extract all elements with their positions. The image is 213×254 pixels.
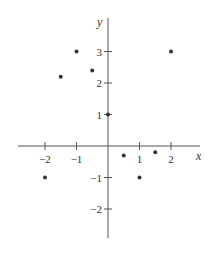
scatter-plot: −2−112−2−1123 x y <box>0 0 213 254</box>
data-point <box>122 153 126 157</box>
y-tick-label: 1 <box>97 109 103 121</box>
plot-area: −2−112−2−1123 x y <box>0 0 213 254</box>
data-point <box>43 176 47 180</box>
x-tick-label: −2 <box>39 153 51 165</box>
y-tick-label: 2 <box>97 77 103 89</box>
y-tick-label: −1 <box>90 172 102 184</box>
data-point <box>106 113 110 117</box>
data-point <box>59 75 63 79</box>
data-point <box>153 150 157 154</box>
data-point <box>90 68 94 72</box>
data-point <box>169 50 173 54</box>
data-point <box>138 176 142 180</box>
y-tick-label: −2 <box>90 203 102 215</box>
x-tick-label: 2 <box>168 153 174 165</box>
ticks: −2−112−2−1123 <box>39 46 174 216</box>
y-axis-label: y <box>96 15 103 29</box>
y-tick-label: 3 <box>97 46 103 58</box>
x-axis-label: x <box>195 149 202 163</box>
x-tick-label: −1 <box>71 153 83 165</box>
data-point <box>75 50 79 54</box>
x-tick-label: 1 <box>137 153 143 165</box>
